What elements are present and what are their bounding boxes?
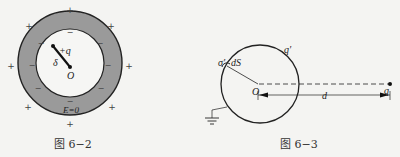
plus-sign: + xyxy=(125,61,133,71)
center-label: O xyxy=(252,86,259,97)
field-label: E=0 xyxy=(62,105,80,115)
diagram-canvas: + + + + + + + + − − − − − − − − +q δ O E… xyxy=(0,0,400,157)
figure-6-2: + + + + + + + + − − − − − − − − +q δ O E… xyxy=(7,5,133,151)
plus-sign: + xyxy=(107,21,115,31)
figure-caption: 图 6−2 xyxy=(54,138,92,151)
charge-label: +q xyxy=(59,45,71,56)
minus-sign: − xyxy=(38,39,45,48)
area-element-label: dS xyxy=(231,57,241,68)
plus-sign: + xyxy=(7,61,15,71)
inner-surface xyxy=(36,29,104,97)
distance-label: d xyxy=(322,90,328,101)
charge-point xyxy=(51,44,55,48)
plus-sign: + xyxy=(24,102,32,112)
surface-density-label: σ′ xyxy=(218,57,226,68)
figure-6-3: σ′ dS q′ O d q 图 6−3 xyxy=(205,44,392,151)
minus-sign: − xyxy=(67,28,74,37)
displacement-label: δ xyxy=(53,57,58,68)
point-charge-label: q xyxy=(384,85,389,96)
figure-caption: 图 6−3 xyxy=(280,138,318,151)
center-point xyxy=(68,65,72,69)
plus-sign: + xyxy=(66,119,74,129)
plus-sign: + xyxy=(66,5,74,15)
minus-sign: − xyxy=(29,61,36,70)
minus-sign: − xyxy=(97,39,104,48)
radius-line xyxy=(227,66,258,84)
ground-icon xyxy=(205,107,227,124)
plus-sign: + xyxy=(25,21,33,31)
minus-sign: − xyxy=(98,84,105,93)
plus-sign: + xyxy=(108,102,116,112)
minus-sign: − xyxy=(35,84,42,93)
minus-sign: − xyxy=(105,61,112,70)
center-label: O xyxy=(67,70,74,81)
induced-charge-label: q′ xyxy=(284,44,292,55)
